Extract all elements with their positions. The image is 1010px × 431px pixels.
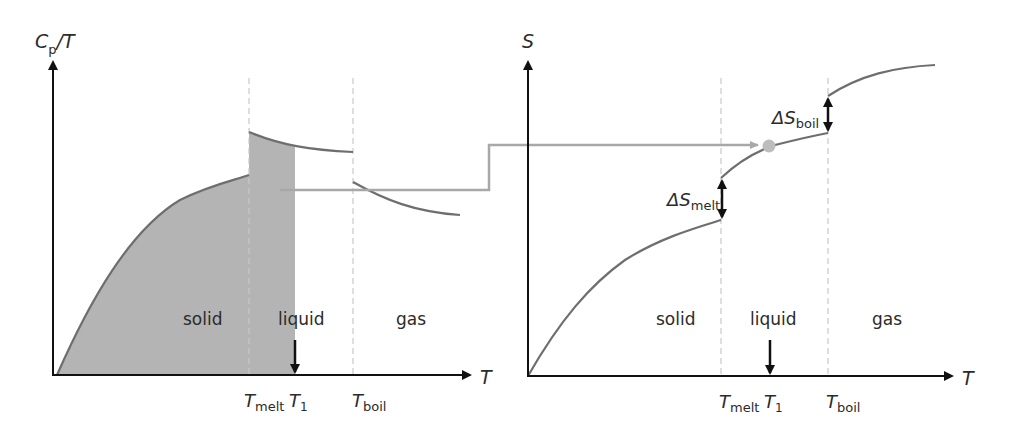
region-label-gas-right: gas xyxy=(872,309,902,329)
liquid-entropy-curve xyxy=(721,133,828,178)
right-chart: S T ΔSmelt ΔSboil solid liquid gas Tmelt… xyxy=(522,30,975,415)
entropy-at-t1-marker xyxy=(763,140,776,153)
tick-label-t1: T1 xyxy=(289,390,308,414)
region-label-solid: solid xyxy=(183,309,223,329)
shaded-integral-area xyxy=(57,132,295,375)
region-label-liquid-right: liquid xyxy=(750,309,797,329)
region-label-solid-right: solid xyxy=(656,309,696,329)
delta-s-boil-label: ΔSboil xyxy=(770,107,819,131)
gas-cp-curve xyxy=(353,182,460,215)
tick-label-t-boil-right: Tboil xyxy=(826,391,860,415)
delta-s-melt-label: ΔSmelt xyxy=(665,189,720,213)
tick-label-t1-right: T1 xyxy=(764,391,783,415)
tick-label-t-melt-right: Tmelt xyxy=(719,391,759,415)
y-axis-label-right: S xyxy=(522,30,534,52)
diagram-canvas: Cp/T T solid liquid gas Tmelt T1 Tboil S xyxy=(0,0,1010,431)
left-chart: Cp/T T solid liquid gas Tmelt T1 Tboil xyxy=(35,30,493,414)
solid-entropy-curve xyxy=(528,220,721,376)
region-label-liquid: liquid xyxy=(278,309,325,329)
x-axis-label: T xyxy=(480,366,493,388)
tick-label-t-melt: Tmelt xyxy=(244,390,284,414)
tick-label-t-boil: Tboil xyxy=(352,390,386,414)
gas-entropy-curve xyxy=(828,65,935,96)
x-axis-label-right: T xyxy=(962,367,975,389)
region-label-gas: gas xyxy=(396,309,426,329)
y-axis-label: Cp/T xyxy=(35,30,76,57)
